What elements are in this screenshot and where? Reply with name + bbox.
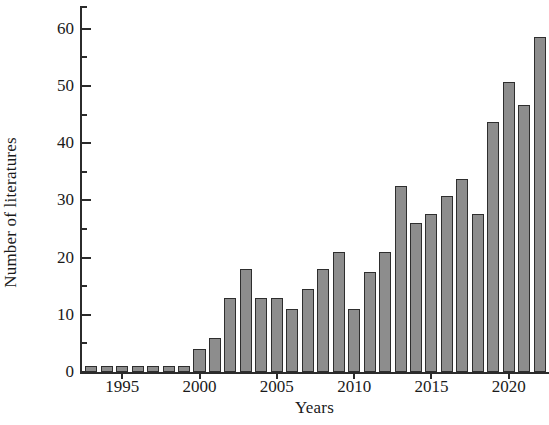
y-axis-tick-label: 40 <box>38 134 74 151</box>
y-axis-tick-label: 20 <box>38 249 74 266</box>
bar <box>240 269 252 372</box>
bar <box>503 82 515 373</box>
y-axis-tick-label: 60 <box>38 20 74 37</box>
bar <box>255 298 267 372</box>
bar <box>395 186 407 372</box>
bar <box>132 366 144 372</box>
bar <box>333 252 345 372</box>
bar <box>410 223 422 372</box>
bar <box>209 338 221 372</box>
bar <box>364 272 376 372</box>
x-axis-tick-label: 2005 <box>247 378 307 395</box>
x-axis-tick-label: 2010 <box>324 378 384 395</box>
x-axis-tick-label: 2000 <box>170 378 230 395</box>
bar <box>85 366 97 372</box>
x-axis-tick-label: 2015 <box>401 378 461 395</box>
bar <box>193 349 205 372</box>
bar <box>224 298 236 372</box>
bar-series <box>82 6 549 372</box>
bar <box>472 214 484 372</box>
x-axis-spine <box>80 372 549 374</box>
y-axis-tick-label: 30 <box>38 191 74 208</box>
y-axis-title: Number of literatures <box>0 0 22 425</box>
bar <box>518 105 530 372</box>
bar <box>178 366 190 372</box>
bar <box>348 309 360 372</box>
y-axis-tick-label: 0 <box>38 363 74 380</box>
bar <box>379 252 391 372</box>
bar <box>271 298 283 372</box>
bar <box>456 179 468 372</box>
bar <box>441 196 453 372</box>
y-axis-tick-label: 50 <box>38 77 74 94</box>
bar-chart-figure: Number of literatures 0102030405060 1995… <box>0 0 549 425</box>
x-axis-tick-label: 1995 <box>92 378 152 395</box>
bar <box>487 122 499 372</box>
bar <box>425 214 437 372</box>
bar <box>147 366 159 372</box>
bar <box>286 309 298 372</box>
x-axis-title: Years <box>80 398 549 418</box>
bar <box>163 366 175 372</box>
bar <box>302 289 314 372</box>
bar <box>116 366 128 372</box>
x-axis-tick-label: 2020 <box>479 378 539 395</box>
bar <box>101 366 113 372</box>
y-axis-tick-label: 10 <box>38 306 74 323</box>
bar <box>534 37 546 372</box>
bar <box>317 269 329 372</box>
